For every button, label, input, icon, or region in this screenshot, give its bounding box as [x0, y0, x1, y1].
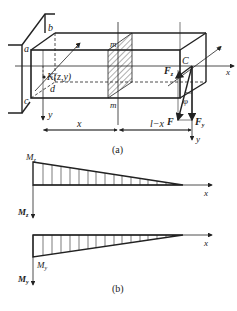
section-m: m m	[108, 22, 132, 125]
svg-text:F: F	[166, 116, 174, 127]
svg-text:C: C	[182, 55, 189, 66]
svg-text:x: x	[225, 67, 230, 77]
svg-text:c: c	[24, 95, 29, 106]
svg-text:d: d	[50, 83, 56, 94]
point-K: K(z,y)	[42, 66, 71, 83]
svg-text:(b): (b)	[112, 283, 124, 295]
svg-text:l−x: l−x	[150, 118, 165, 129]
svg-text:x: x	[203, 238, 208, 248]
svg-text:K(z,y): K(z,y)	[46, 71, 72, 83]
svg-text:z: z	[217, 42, 222, 52]
svg-text:z: z	[75, 39, 80, 50]
svg-text:a: a	[24, 43, 29, 54]
svg-text:My: My	[36, 260, 48, 271]
svg-text:m: m	[110, 100, 117, 110]
svg-text:Fz: Fz	[163, 65, 174, 77]
svg-text:Mz: Mz	[17, 207, 29, 218]
svg-text:x: x	[76, 118, 82, 129]
svg-text:Mz: Mz	[25, 152, 37, 163]
svg-text:y: y	[47, 109, 53, 120]
moment-z-diagram	[33, 162, 212, 218]
moment-y-diagram	[33, 235, 212, 285]
svg-text:My: My	[17, 274, 29, 285]
svg-text:y: y	[195, 134, 200, 144]
svg-text:Fy: Fy	[194, 116, 205, 128]
beam-bending-diagram: m m z z x y y a b c d C K(z,y) Fz F Fy φ	[0, 0, 237, 311]
svg-text:x: x	[203, 188, 208, 198]
svg-text:(a): (a)	[112, 144, 123, 156]
svg-text:b: b	[48, 22, 53, 33]
svg-text:φ: φ	[183, 96, 188, 106]
svg-text:m: m	[110, 39, 117, 49]
